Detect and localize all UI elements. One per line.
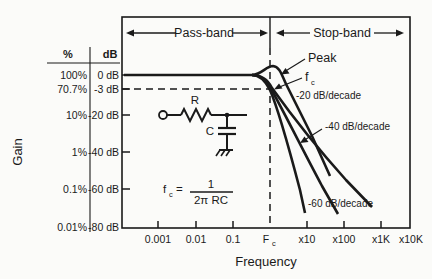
slope-label-40db: -40 dB/decade (325, 121, 390, 132)
formula-numerator: 1 (208, 178, 214, 190)
figure-root: Pass-band Stop-band % dB 100% 70.7% 10% … (0, 0, 432, 279)
percent-tick-5: 0.01% (57, 221, 87, 233)
db-tick-3: -40 dB (88, 146, 119, 158)
peak-label: Peak (308, 51, 337, 65)
x-tick-3-main: F (263, 233, 269, 245)
x-tick-7: x10K (399, 233, 423, 245)
x-tick-1: 0.01 (186, 233, 207, 245)
resistor-label: R (191, 94, 199, 106)
slope-label-60db: -60 dB/decade (308, 198, 373, 209)
percent-tick-1: 70.7% (57, 83, 87, 95)
resistor-symbol (181, 109, 211, 121)
formula-lhs: f (163, 183, 167, 195)
x-tick-0: 0.001 (145, 233, 171, 245)
x-tick-5: x100 (333, 233, 356, 245)
x-tick-4: x10 (299, 233, 316, 245)
fc-label-main: f (305, 70, 309, 84)
db-tick-5: -80 dB (88, 221, 119, 233)
ground-symbol (216, 150, 233, 156)
percent-tick-2: 10% (66, 109, 87, 121)
db-tick-1: -3 dB (94, 83, 119, 95)
fc-label: f c (305, 70, 315, 87)
fc-label-sub: c (311, 78, 315, 87)
x-tick-2: 0.1 (226, 233, 241, 245)
formula-denominator: 2π RC (194, 194, 228, 206)
circuit-input-terminal (159, 111, 167, 119)
db-tick-4: -60 dB (88, 183, 119, 195)
db-column-header: dB (103, 48, 118, 60)
stop-band-label: Stop-band (313, 26, 371, 40)
x-tick-6: x1K (372, 233, 390, 245)
db-tick-0: 0 dB (97, 69, 119, 81)
db-tick-2: -20 dB (88, 109, 119, 121)
x-tick-3: F c (263, 233, 276, 248)
percent-tick-0: 100% (60, 69, 87, 81)
y-axis-title: Gain (10, 138, 25, 165)
slope-label-20db: -20 dB/decade (296, 90, 361, 101)
peak-leader-line (281, 59, 305, 75)
cutoff-formula: f c = 1 2π RC (163, 178, 233, 206)
rc-circuit-diagram: R C (159, 94, 247, 156)
x-axis-title: Frequency (235, 254, 297, 269)
formula-lhs-sub: c (169, 190, 173, 199)
capacitor-label: C (206, 125, 214, 137)
formula-equals: = (176, 183, 183, 195)
percent-tick-3: 1% (72, 146, 87, 158)
x-tick-3-sub: c (272, 239, 276, 248)
percent-tick-4: 0.1% (63, 183, 87, 195)
percent-column-header: % (63, 48, 73, 60)
pass-band-label: Pass-band (174, 26, 234, 40)
filter-response-figure: Pass-band Stop-band % dB 100% 70.7% 10% … (0, 0, 432, 279)
y-tick-marks (122, 75, 130, 189)
